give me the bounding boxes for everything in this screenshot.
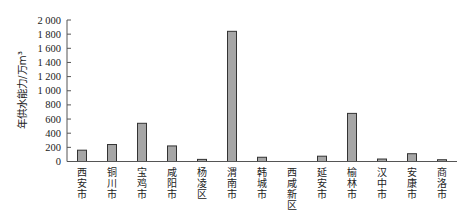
x-tick-label: 韩城市	[257, 166, 267, 200]
svg-text:延: 延	[317, 167, 327, 178]
x-tick-label: 杨凌区	[197, 166, 207, 200]
x-tick-label: 延安市	[317, 167, 327, 200]
svg-text:城: 城	[257, 178, 267, 189]
bar	[318, 156, 327, 161]
svg-text:市: 市	[227, 188, 237, 200]
bar	[408, 154, 417, 162]
svg-text:阳: 阳	[167, 178, 177, 189]
x-tick-label: 汉中市	[377, 167, 387, 200]
bar	[168, 146, 177, 162]
x-tick-label: 铜川市	[107, 167, 117, 200]
y-tick-label: 200	[45, 142, 61, 153]
bar	[228, 31, 237, 161]
svg-text:市: 市	[317, 188, 327, 200]
x-tick-label: 榆林市	[347, 166, 357, 200]
svg-text:市: 市	[137, 188, 147, 200]
x-tick-label: 安康市	[407, 166, 417, 200]
y-tick-label: 1 600	[37, 43, 61, 54]
y-axis-title: 年供水能力/万m³	[16, 51, 28, 129]
svg-text:榆: 榆	[347, 166, 357, 178]
bar-chart: 年供水能力/万m³ 02004006008001 0001 2001 4001 …	[0, 0, 471, 218]
svg-text:咸: 咸	[287, 178, 297, 189]
svg-text:南: 南	[227, 177, 237, 189]
svg-text:铜: 铜	[107, 167, 117, 178]
svg-text:渭: 渭	[227, 167, 237, 178]
svg-text:市: 市	[107, 188, 117, 200]
x-tick-label: 商洛市	[437, 166, 447, 200]
x-tick-label: 渭南市	[227, 167, 237, 200]
svg-text:市: 市	[347, 188, 357, 200]
svg-text:川: 川	[107, 178, 117, 189]
svg-text:安: 安	[407, 166, 417, 178]
x-tick-label: 西咸新区	[287, 167, 297, 211]
svg-text:市: 市	[437, 188, 447, 200]
svg-text:杨: 杨	[197, 166, 207, 178]
svg-text:西: 西	[287, 167, 297, 178]
svg-text:区: 区	[287, 200, 297, 211]
svg-text:林: 林	[347, 177, 357, 189]
x-tick-label: 咸阳市	[167, 167, 177, 200]
y-tick-label: 1 400	[37, 57, 61, 68]
svg-text:中: 中	[377, 177, 387, 189]
y-axis-label: 年供水能力/万m³	[16, 51, 28, 129]
svg-text:市: 市	[377, 188, 387, 200]
y-tick-label: 1 800	[37, 29, 61, 40]
bar	[348, 113, 357, 161]
svg-text:安: 安	[317, 177, 327, 189]
y-axis: 02004006008001 0001 2001 4001 6001 8002 …	[37, 15, 71, 168]
svg-text:西: 西	[77, 167, 87, 178]
svg-text:商: 商	[437, 166, 447, 178]
svg-text:市: 市	[167, 188, 177, 200]
bar	[138, 123, 147, 161]
svg-text:康: 康	[407, 177, 417, 189]
bar	[108, 145, 117, 162]
y-tick-label: 600	[45, 114, 61, 125]
y-tick-label: 0	[56, 156, 61, 167]
y-tick-label: 1 000	[37, 85, 61, 96]
svg-text:区: 区	[197, 189, 207, 200]
x-axis: 西安市铜川市宝鸡市咸阳市杨凌区渭南市韩城市西咸新区延安市榆林市汉中市安康市商洛市	[67, 162, 457, 211]
y-tick-label: 1 200	[37, 71, 61, 82]
y-tick-label: 800	[45, 99, 61, 110]
svg-text:汉: 汉	[377, 167, 387, 178]
svg-text:咸: 咸	[167, 167, 177, 178]
svg-text:安: 安	[77, 177, 87, 189]
svg-text:洛: 洛	[437, 177, 447, 189]
svg-text:市: 市	[77, 188, 87, 200]
svg-text:市: 市	[257, 188, 267, 200]
svg-text:市: 市	[407, 188, 417, 200]
x-tick-label: 西安市	[77, 167, 87, 200]
x-tick-label: 宝鸡市	[137, 166, 147, 200]
bar	[258, 157, 267, 161]
svg-text:新: 新	[287, 188, 297, 200]
svg-text:宝: 宝	[137, 166, 147, 178]
bars	[78, 31, 447, 161]
svg-text:凌: 凌	[197, 177, 207, 189]
bar	[78, 150, 87, 161]
svg-text:鸡: 鸡	[137, 177, 147, 189]
y-tick-label: 400	[45, 128, 61, 139]
svg-text:韩: 韩	[257, 166, 267, 178]
y-tick-label: 2 000	[37, 15, 61, 26]
